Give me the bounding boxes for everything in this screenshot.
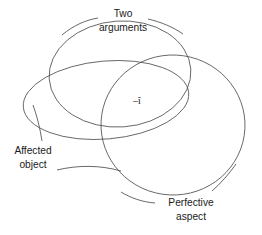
set-circle-two-arguments	[45, 16, 194, 132]
leader-line-affected-object-right	[57, 166, 121, 171]
label-two-arguments-line1: Two	[114, 8, 133, 19]
label-affected-object-line1: Affected	[14, 145, 52, 156]
leader-line-affected-object-up	[33, 105, 42, 141]
label-perfective-aspect-line1: Perfective	[168, 197, 214, 208]
label-two-arguments-line2: arguments	[99, 22, 147, 33]
leader-line-perfective-aspect-left	[121, 192, 155, 203]
leader-line-perfective-aspect-right	[212, 164, 236, 191]
label-affected-object-line2: object	[19, 159, 46, 170]
center-intersection-label: –ĭ	[132, 95, 141, 106]
label-perfective-aspect-line2: aspect	[176, 211, 206, 222]
venn-diagram-canvas: –ĭ Two arguments Affected object Perfect…	[0, 0, 262, 235]
venn-diagram-figure: –ĭ Two arguments Affected object Perfect…	[0, 0, 262, 235]
set-ellipse-affected-object	[20, 54, 192, 146]
leader-line-two-arguments-left	[62, 18, 98, 35]
